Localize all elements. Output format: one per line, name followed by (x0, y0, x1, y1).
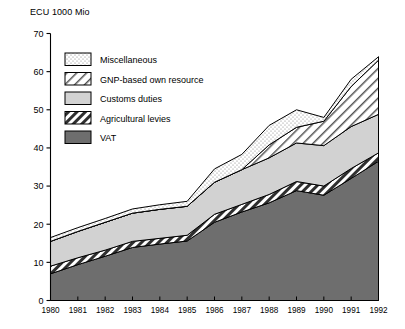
y-axis-tick-label: 0 (38, 296, 43, 306)
x-axis-tick-label: 1990 (315, 306, 334, 315)
legend-label: Miscellaneous (100, 55, 158, 65)
legend-label: GNP-based own resource (100, 75, 204, 85)
y-axis: 010203040506070 (33, 29, 50, 306)
x-axis-tick-label: 1989 (287, 306, 306, 315)
chart-legend: MiscellaneousGNP-based own resourceCusto… (65, 53, 204, 144)
x-axis-tick-label: 1987 (233, 306, 252, 315)
legend-label: VAT (100, 133, 117, 143)
x-axis-tick-label: 1991 (342, 306, 361, 315)
legend-swatch-customs-duties (65, 92, 91, 105)
y-axis-tick-label: 30 (33, 181, 43, 191)
y-axis-tick-label: 50 (33, 105, 43, 115)
x-axis-tick-label: 1988 (260, 306, 279, 315)
legend-swatch-miscellaneous (65, 53, 91, 66)
stacked-area-chart: 010203040506070 198019811982198319841985… (0, 0, 405, 329)
x-axis-tick-label: 1981 (69, 306, 88, 315)
chart-container: ECU 1000 Mio 010203040506070 19801981198… (0, 0, 405, 329)
legend-label: Customs duties (100, 94, 163, 104)
y-axis-tick-label: 10 (33, 258, 43, 268)
x-axis-tick-label: 1986 (205, 306, 224, 315)
y-axis-tick-label: 20 (33, 220, 43, 230)
x-axis-tick-label: 1992 (369, 306, 388, 315)
x-axis-tick-label: 1980 (41, 306, 60, 315)
x-axis-tick-label: 1984 (151, 306, 170, 315)
y-axis-tick-label: 60 (33, 67, 43, 77)
y-axis-tick-label: 70 (33, 29, 43, 39)
x-axis-tick-label: 1982 (96, 306, 115, 315)
legend-swatch-agricultural-levies (65, 112, 91, 125)
legend-swatch-vat (65, 131, 91, 144)
legend-swatch-gnp-based-own-resource (65, 73, 91, 86)
x-axis-tick-label: 1985 (178, 306, 197, 315)
y-axis-unit-label: ECU 1000 Mio (30, 7, 90, 17)
y-axis-tick-label: 40 (33, 143, 43, 153)
legend-label: Agricultural levies (100, 114, 171, 124)
x-axis-tick-label: 1983 (123, 306, 142, 315)
